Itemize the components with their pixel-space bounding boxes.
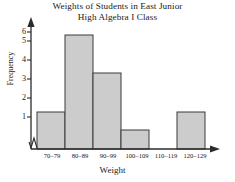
histogram-figure: Weights of Students in East Junior High … — [0, 0, 235, 182]
bar-100-109 — [121, 130, 149, 149]
bar-120-129 — [177, 112, 205, 149]
axis-break-icon — [29, 138, 37, 148]
plot-area — [0, 0, 235, 182]
y-axis-arrow-icon — [27, 17, 34, 27]
bar-90-99 — [93, 73, 121, 149]
bar-80-89 — [65, 35, 93, 149]
x-axis-arrow-icon — [210, 145, 220, 152]
y-axis — [27, 17, 35, 149]
bar-70-79 — [37, 112, 65, 149]
bars-group — [37, 35, 205, 149]
